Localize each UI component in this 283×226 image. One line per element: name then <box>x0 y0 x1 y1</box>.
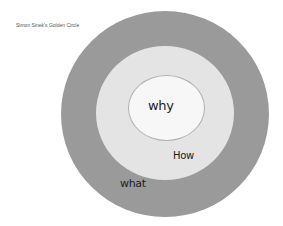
how-label: How <box>173 150 194 161</box>
what-label: what <box>120 177 146 190</box>
why-label: why <box>148 98 174 113</box>
diagram-title: Simon Sinek's Golden Circle <box>16 22 79 28</box>
